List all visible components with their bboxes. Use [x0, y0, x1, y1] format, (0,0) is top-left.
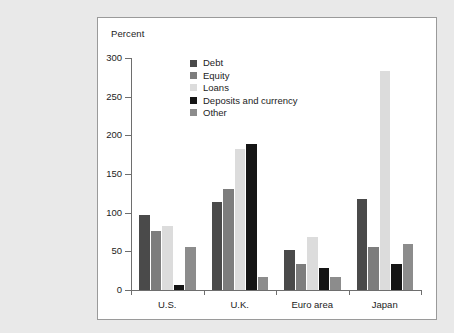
legend-swatch-icon	[190, 72, 197, 79]
x-tick	[421, 290, 422, 295]
bar	[296, 264, 307, 290]
chart-legend: DebtEquityLoansDeposits and currencyOthe…	[190, 57, 298, 119]
plot-area: Percent 050100150200250300 U.S.U.K.Euro …	[98, 18, 436, 319]
x-axis-group-label: U.K.	[231, 299, 249, 310]
chart-panel: Percent 050100150200250300 U.S.U.K.Euro …	[97, 17, 437, 320]
legend-item: Loans	[190, 82, 298, 94]
x-axis-group-label: Euro area	[291, 299, 333, 310]
legend-swatch-icon	[190, 109, 197, 116]
bar	[380, 71, 391, 290]
bar	[368, 247, 379, 290]
bar	[258, 277, 269, 290]
bar	[391, 264, 402, 290]
bar	[162, 226, 173, 290]
legend-label: Deposits and currency	[203, 96, 298, 106]
x-axis-group-label: Japan	[372, 299, 398, 310]
bar	[223, 189, 234, 290]
legend-label: Debt	[203, 58, 223, 68]
bar	[246, 144, 257, 290]
legend-label: Loans	[203, 83, 229, 93]
x-axis-group-label: U.S.	[158, 299, 176, 310]
legend-item: Other	[190, 107, 298, 119]
x-tick	[204, 290, 205, 295]
x-tick	[349, 290, 350, 295]
legend-label: Equity	[203, 71, 229, 81]
x-tick	[276, 290, 277, 295]
x-tick	[131, 290, 132, 295]
bar	[139, 215, 150, 290]
bar	[174, 285, 185, 290]
legend-item: Equity	[190, 69, 298, 81]
legend-swatch-icon	[190, 97, 197, 104]
legend-swatch-icon	[190, 60, 197, 67]
bar	[185, 247, 196, 290]
bar	[235, 149, 246, 290]
bar	[319, 268, 330, 290]
bar	[403, 244, 414, 290]
bar	[307, 237, 318, 290]
legend-item: Deposits and currency	[190, 94, 298, 106]
bar	[212, 202, 223, 290]
bar	[151, 231, 162, 290]
bar	[284, 250, 295, 290]
bar	[357, 199, 368, 290]
legend-label: Other	[203, 108, 227, 118]
legend-swatch-icon	[190, 84, 197, 91]
legend-item: Debt	[190, 57, 298, 69]
bar	[330, 277, 341, 290]
